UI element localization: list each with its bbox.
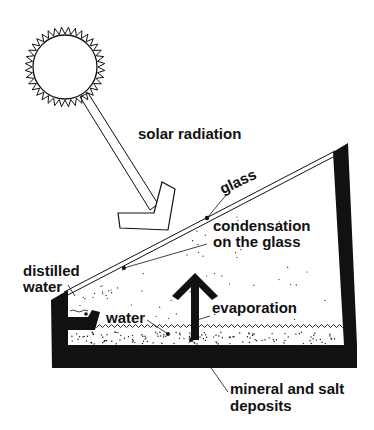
- deposit-dot: [216, 342, 217, 343]
- deposit-dot: [249, 333, 250, 334]
- deposit-dot: [72, 340, 73, 341]
- deposit-dot: [147, 341, 148, 342]
- deposit-dot: [271, 333, 272, 334]
- deposit-dot: [163, 336, 164, 337]
- deposit-dot: [239, 332, 240, 333]
- deposit-dot: [159, 332, 160, 333]
- sun-ray: [59, 27, 65, 34]
- deposit-dot: [288, 336, 289, 337]
- vapor-dot: [141, 291, 142, 292]
- vapor-dot: [253, 285, 254, 286]
- deposit-dot: [175, 332, 176, 333]
- deposit-dot: [119, 339, 120, 340]
- vapor-dot: [79, 305, 80, 306]
- sun-ray: [54, 28, 60, 36]
- deposit-dot: [141, 334, 142, 335]
- vapor-dot: [131, 304, 132, 305]
- deposit-dot: [218, 335, 219, 336]
- deposit-dot: [71, 336, 72, 337]
- sun-ray: [71, 98, 77, 106]
- deposit-dot: [183, 338, 184, 339]
- deposit-dot: [309, 340, 310, 341]
- sun-ray: [26, 56, 34, 62]
- distilled-water-surface: [70, 310, 88, 312]
- vapor-dot: [296, 284, 297, 285]
- vapor-dot: [105, 295, 106, 296]
- sun-ray: [25, 61, 32, 67]
- deposit-dot: [120, 335, 121, 336]
- deposit-dot: [83, 336, 84, 337]
- deposit-dot: [165, 336, 166, 337]
- sun-ray: [71, 28, 77, 36]
- deposit-dot: [161, 343, 162, 344]
- sun-ray: [98, 67, 105, 73]
- vapor-dot: [83, 297, 84, 298]
- deposit-dot: [179, 337, 180, 338]
- deposit-dot: [274, 341, 275, 342]
- deposit-dot: [249, 337, 250, 338]
- deposit-dot: [247, 336, 248, 337]
- vapor-dot: [196, 231, 197, 232]
- deposit-dot: [90, 342, 91, 343]
- solar-radiation-label: solar radiation: [138, 126, 241, 142]
- deposit-dot: [273, 339, 274, 340]
- deposit-dot: [284, 333, 285, 334]
- deposit-dot: [229, 337, 230, 338]
- deposit-dot: [179, 333, 180, 334]
- deposit-dot: [313, 335, 314, 336]
- deposit-dot: [303, 343, 304, 344]
- vapor-dot: [197, 244, 198, 245]
- vapor-dot: [214, 273, 215, 274]
- deposit-dot: [87, 336, 88, 337]
- deposit-dot: [320, 339, 321, 340]
- deposit-dot: [142, 336, 143, 337]
- sun-icon: [25, 27, 105, 107]
- deposits-label-line1: mineral and salt: [230, 381, 344, 397]
- solar-still-diagram: [0, 0, 374, 430]
- sun-ray: [26, 73, 34, 79]
- deposit-dot: [331, 339, 332, 340]
- sun-ray: [59, 100, 65, 107]
- deposit-dot: [205, 334, 206, 335]
- deposit-dot: [222, 337, 223, 338]
- deposit-dot: [102, 337, 103, 338]
- vapor-dot: [108, 290, 109, 291]
- deposit-dot: [132, 339, 133, 340]
- deposit-dot: [94, 343, 95, 344]
- deposit-dot: [106, 334, 107, 335]
- vapor-dot: [92, 297, 93, 298]
- deposit-dot: [242, 341, 243, 342]
- deposit-dot: [203, 338, 204, 339]
- sun-ray: [98, 61, 105, 67]
- vapor-dot: [102, 293, 103, 294]
- deposit-dot: [144, 336, 145, 337]
- deposit-dot: [117, 332, 118, 333]
- deposit-dot: [199, 336, 200, 337]
- vapor-dot: [324, 300, 325, 301]
- deposit-dot: [255, 339, 256, 340]
- vapor-dot: [278, 279, 279, 280]
- deposit-dot: [314, 333, 315, 334]
- evaporation-label: evaporation: [212, 300, 297, 316]
- deposit-dot: [194, 343, 195, 344]
- deposit-dot: [155, 332, 156, 333]
- condensation-label-line2: on the glass: [213, 234, 301, 250]
- sun-ray: [54, 98, 60, 106]
- deposit-dot: [105, 340, 106, 341]
- deposit-dot: [76, 333, 77, 334]
- deposit-dot: [157, 333, 158, 334]
- vapor-dot: [192, 240, 193, 241]
- deposit-dot: [133, 340, 134, 341]
- vapor-dot: [111, 289, 112, 290]
- vapor-dot: [171, 300, 172, 301]
- still-housing: [51, 143, 357, 368]
- deposit-dot: [79, 336, 80, 337]
- vapor-dot: [168, 318, 169, 319]
- deposit-dot: [213, 336, 214, 337]
- vapor-dot: [102, 292, 103, 293]
- deposit-dot: [134, 342, 135, 343]
- condensation-label-line1: condensation: [213, 218, 311, 234]
- deposit-dot: [206, 337, 207, 338]
- vapor-dot: [102, 285, 103, 286]
- deposit-dot: [128, 336, 129, 337]
